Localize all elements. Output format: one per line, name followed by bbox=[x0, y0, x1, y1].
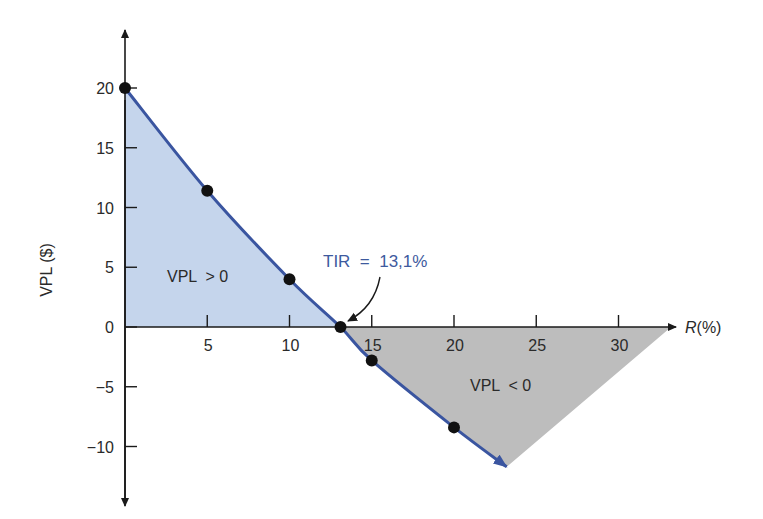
region-negative-label: VPL < 0 bbox=[470, 377, 531, 394]
y-tick-label: 15 bbox=[96, 140, 114, 157]
x-tick-label: 5 bbox=[204, 337, 213, 354]
y-tick-label: 10 bbox=[96, 200, 114, 217]
data-point bbox=[366, 354, 378, 366]
x-tick-label: 10 bbox=[282, 337, 300, 354]
npv-chart: 51015202530 20151050−5−10 VPL ($) R(%) V… bbox=[0, 0, 763, 519]
data-point bbox=[119, 82, 131, 94]
tir-annotation: TIR = 13,1% bbox=[323, 252, 427, 271]
data-point bbox=[201, 185, 213, 197]
y-axis-title: VPL ($) bbox=[38, 243, 55, 297]
region-positive bbox=[125, 88, 340, 327]
y-tick-label: 20 bbox=[96, 80, 114, 97]
data-point bbox=[334, 321, 346, 333]
tir-arrow bbox=[348, 277, 380, 321]
x-tick-label: 20 bbox=[446, 337, 464, 354]
y-tick-label: −10 bbox=[87, 439, 114, 456]
x-tick-label: 25 bbox=[528, 337, 546, 354]
y-tick-label: 5 bbox=[105, 259, 114, 276]
region-positive-label: VPL > 0 bbox=[167, 268, 228, 285]
y-tick-label: 0 bbox=[105, 319, 114, 336]
x-tick-label: 15 bbox=[364, 337, 382, 354]
x-axis-title: R(%) bbox=[685, 319, 721, 336]
data-point bbox=[448, 421, 460, 433]
x-tick-label: 30 bbox=[611, 337, 629, 354]
data-point bbox=[284, 273, 296, 285]
y-tick-label: −5 bbox=[96, 379, 114, 396]
